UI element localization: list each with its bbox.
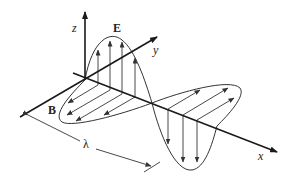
x-axis <box>73 73 277 152</box>
wavelength-label: λ <box>83 137 89 151</box>
electric-field-label: E <box>113 21 121 35</box>
x-axis-label: x <box>257 149 264 163</box>
z-axis-label: z <box>71 21 77 35</box>
axes <box>20 12 277 152</box>
magnetic-field-label: B <box>48 103 56 117</box>
y-axis-label: y <box>152 43 159 57</box>
em-wave-diagram: z E y B x λ <box>0 0 289 180</box>
wavelength-dimension <box>28 115 160 172</box>
y-axis <box>20 37 157 117</box>
